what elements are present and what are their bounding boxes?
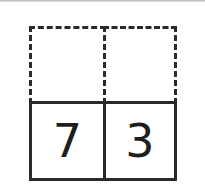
top-edge-strip (0, 0, 205, 2)
empty-cell-top-right (103, 26, 177, 104)
digit-cell-bottom-right: 3 (103, 101, 177, 181)
empty-cell-top-left (29, 26, 106, 104)
digit-grid: 7 3 (29, 26, 177, 181)
digit-cell-bottom-left: 7 (29, 101, 106, 181)
digit-ones: 3 (125, 118, 154, 164)
digit-tens: 7 (53, 118, 82, 164)
